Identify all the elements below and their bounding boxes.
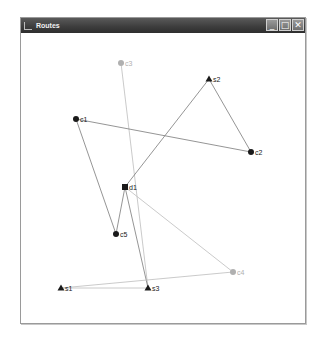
node-label: s1 xyxy=(65,285,73,292)
triangle-node-icon xyxy=(145,285,152,291)
square-node-icon xyxy=(122,184,128,190)
node-label: c5 xyxy=(120,231,128,238)
edge-c4-s1 xyxy=(61,272,233,288)
node-c4[interactable]: c4 xyxy=(230,269,245,276)
node-c2[interactable]: c2 xyxy=(248,149,263,156)
node-c5[interactable]: c5 xyxy=(113,231,128,238)
node-label: c4 xyxy=(237,269,245,276)
circle-node-icon xyxy=(248,149,254,155)
node-c1[interactable]: c1 xyxy=(73,116,88,123)
node-s3[interactable]: s3 xyxy=(145,285,160,292)
edge-s2-d1 xyxy=(125,79,209,187)
node-s2[interactable]: s2 xyxy=(206,76,221,83)
circle-node-icon xyxy=(230,269,236,275)
node-label: s3 xyxy=(152,285,160,292)
edge-s2-c2 xyxy=(209,79,251,152)
circle-node-icon xyxy=(118,60,124,66)
node-label: c3 xyxy=(125,60,133,67)
triangle-node-icon xyxy=(206,76,213,82)
edge-c1-c2 xyxy=(76,119,251,152)
circle-node-icon xyxy=(113,231,119,237)
edge-c3-s3 xyxy=(121,63,148,288)
node-label: s2 xyxy=(213,76,221,83)
circle-node-icon xyxy=(73,116,79,122)
node-s1[interactable]: s1 xyxy=(58,285,73,292)
route-graph-canvas[interactable]: c3s2c1c2d1c5c4s1s3 xyxy=(0,0,321,340)
edge-c1-c5 xyxy=(76,119,116,234)
node-c3[interactable]: c3 xyxy=(118,60,133,67)
edge-c5-d1 xyxy=(116,187,125,234)
node-label: c1 xyxy=(80,116,88,123)
node-label: c2 xyxy=(255,149,263,156)
node-d1[interactable]: d1 xyxy=(122,184,137,191)
node-label: d1 xyxy=(129,184,137,191)
